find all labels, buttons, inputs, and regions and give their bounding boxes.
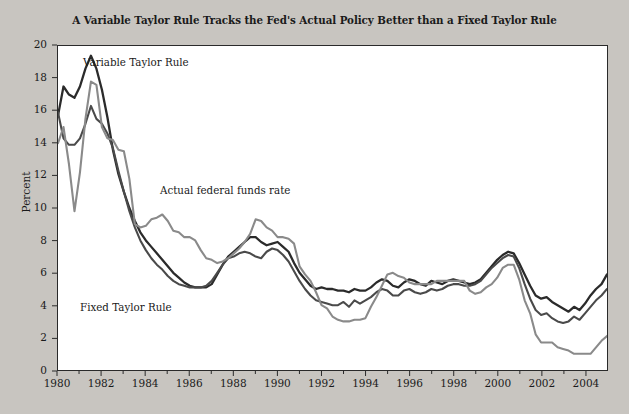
x-tick-label: 1980 <box>35 377 79 389</box>
x-tick-label: 1986 <box>167 377 211 389</box>
y-tick-label: 18 <box>17 71 47 83</box>
y-tick-label: 2 <box>17 331 47 343</box>
x-tick-label: 1996 <box>388 377 432 389</box>
series-line-1 <box>58 106 607 323</box>
y-tick-label: 0 <box>17 364 47 376</box>
x-tick-label: 1988 <box>211 377 255 389</box>
y-tick-label: 10 <box>17 201 47 213</box>
x-tick-label: 1984 <box>123 377 167 389</box>
annotation-label: Fixed Taylor Rule <box>80 301 172 313</box>
series-canvas <box>58 46 607 370</box>
x-tick-label: 1998 <box>432 377 476 389</box>
x-tick-label: 2004 <box>564 377 608 389</box>
y-axis-label: Percent <box>20 152 32 232</box>
x-tick-label: 2000 <box>476 377 520 389</box>
plot-area <box>57 45 608 371</box>
annotation-label: Actual federal funds rate <box>160 184 290 196</box>
y-tick-label: 16 <box>17 103 47 115</box>
x-tick-label: 1990 <box>255 377 299 389</box>
y-tick-label: 4 <box>17 299 47 311</box>
y-tick-label: 6 <box>17 266 47 278</box>
x-tick-label: 1994 <box>344 377 388 389</box>
x-tick-label: 1992 <box>299 377 343 389</box>
y-tick-label: 20 <box>17 38 47 50</box>
y-tick-label: 14 <box>17 136 47 148</box>
figure-container: A Variable Taylor Rule Tracks the Fed's … <box>0 0 629 414</box>
x-tick-label: 1982 <box>79 377 123 389</box>
x-tick-label: 2002 <box>520 377 564 389</box>
series-line-0 <box>58 56 607 312</box>
y-tick-label: 8 <box>17 234 47 246</box>
annotation-label: Variable Taylor Rule <box>83 56 189 68</box>
chart-title: A Variable Taylor Rule Tracks the Fed's … <box>0 14 629 26</box>
y-tick-label: 12 <box>17 168 47 180</box>
